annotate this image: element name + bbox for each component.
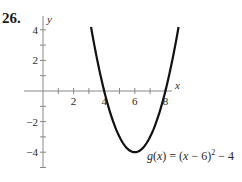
y-tick-label: 2 bbox=[33, 54, 39, 66]
x-tick-label: 2 bbox=[71, 95, 77, 107]
y-tick-label: 4 bbox=[33, 24, 39, 36]
graph-figure: 26. 2468 42−2−4 x y g(x) = (x − 6)2 − 4 bbox=[0, 0, 242, 182]
function-label: g(x) = (x − 6)2 − 4 bbox=[147, 148, 234, 163]
y-tick-label: −4 bbox=[26, 146, 38, 158]
x-tick-label: 6 bbox=[132, 95, 138, 107]
y-axis-label: y bbox=[46, 13, 52, 25]
y-tick-label: −2 bbox=[26, 116, 38, 128]
x-axis-label: x bbox=[174, 79, 180, 91]
x-axis-tick-labels: 2468 bbox=[71, 95, 169, 107]
coordinate-plane: 2468 42−2−4 x y g(x) = (x − 6)2 − 4 bbox=[0, 0, 242, 182]
